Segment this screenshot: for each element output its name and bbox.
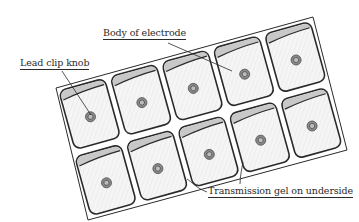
electrode-diagram: Body of electrode Lead clip knob Transmi… — [0, 0, 359, 222]
label-transmission-gel: Transmission gel on underside — [208, 185, 353, 198]
label-lead-clip-knob: Lead clip knob — [20, 57, 89, 70]
label-body-of-electrode: Body of electrode — [103, 27, 186, 40]
